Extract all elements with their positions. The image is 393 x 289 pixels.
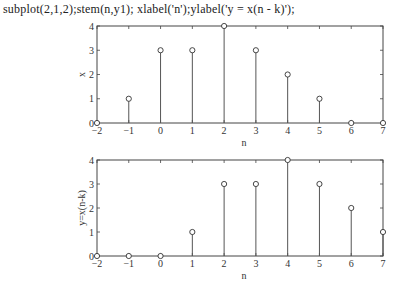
stem-marker [317,181,322,186]
x-tick-label: 4 [285,125,290,136]
x-tick-label: 3 [253,258,258,269]
y-tick-label: 3 [89,179,94,190]
stem-marker [317,96,322,101]
y-tick-label: 0 [89,118,94,129]
x-tick-label: −1 [123,125,134,136]
y-tick-label: 0 [89,251,94,262]
stem-marker [349,120,354,125]
y-tick-label: 2 [89,69,94,80]
stem-marker [190,48,195,53]
stem-marker [253,48,258,53]
stem-marker [126,96,131,101]
x-tick-label: 0 [158,125,163,136]
stem-marker [349,205,354,210]
y-tick-label: 1 [89,227,94,238]
stem-marker [94,253,99,258]
stem-plots: −2−10123456701234nx−2−10123456701234ny=x… [0,0,393,289]
x-tick-label: 7 [381,125,386,136]
x-tick-label: 4 [285,258,290,269]
stem-marker [253,181,258,186]
x-tick-label: 3 [253,125,258,136]
stem-marker [158,48,163,53]
x-tick-label: 6 [349,125,354,136]
y-tick-label: 1 [89,93,94,104]
stem-marker [158,253,163,258]
x-tick-label: 7 [381,258,386,269]
y-tick-label: 2 [89,203,94,214]
x-tick-label: 6 [349,258,354,269]
y-tick-label: 4 [89,155,94,166]
x-tick-label: 2 [222,258,227,269]
x-tick-label: 5 [317,125,322,136]
stem-marker [380,229,385,234]
stem-marker [285,72,290,77]
y-tick-label: 4 [89,21,94,32]
subplot-1: −2−10123456701234nx [76,21,386,149]
stem-marker [285,157,290,162]
y-tick-label: 3 [89,45,94,56]
x-axis-label: n [242,137,247,148]
y-axis-label: y=x(n-k) [76,190,88,226]
x-tick-label: 5 [317,258,322,269]
subplot-2: −2−10123456701234ny=x(n-k) [76,155,386,282]
stem-marker [126,253,131,258]
x-tick-label: 0 [158,258,163,269]
x-tick-label: 2 [222,125,227,136]
stem-marker [222,181,227,186]
stem-marker [222,23,227,28]
x-tick-label: 1 [190,258,195,269]
x-tick-label: −1 [123,258,134,269]
axes-box [97,160,383,256]
y-axis-label: x [76,72,87,77]
axes-box [97,26,383,123]
x-tick-label: 1 [190,125,195,136]
stem-marker [94,120,99,125]
x-axis-label: n [242,270,247,281]
stem-marker [190,229,195,234]
stem-marker [380,120,385,125]
